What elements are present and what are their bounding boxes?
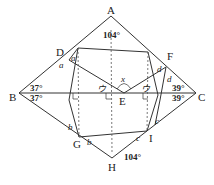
angle-x: x	[120, 74, 125, 84]
label-E: E	[119, 95, 126, 107]
angle-u-left: ウ	[97, 84, 107, 94]
angle-d-2: d	[167, 74, 172, 84]
label-A: A	[107, 4, 115, 16]
angle-c-1: c	[136, 133, 140, 143]
angle-b-2: b	[87, 137, 92, 147]
segment-DF-top	[78, 48, 148, 52]
dashed-left	[78, 48, 79, 137]
angle-a-1: a	[71, 53, 76, 63]
label-H: H	[108, 161, 116, 173]
label-B: B	[9, 91, 16, 103]
label-G: G	[73, 138, 81, 150]
right-angle-mark	[73, 93, 78, 99]
angle-d-1: d	[157, 64, 162, 74]
angle-B-lower: 37°	[30, 93, 43, 103]
angle-H: 104°	[124, 152, 142, 162]
label-C: C	[198, 91, 205, 103]
geometry-diagram: A B C H D F E G I 104° 104° 37° 37° 39° …	[0, 0, 214, 185]
angle-b-1: b	[68, 122, 73, 132]
angle-C-upper: 39°	[172, 83, 185, 93]
angle-B-upper: 37°	[30, 83, 43, 93]
diagram-canvas: A B C H D F E G I 104° 104° 37° 37° 39° …	[0, 0, 214, 185]
angle-C-lower: 39°	[172, 93, 185, 103]
angle-a-2: a	[59, 60, 64, 70]
angle-c-2: c	[155, 116, 159, 126]
label-I: I	[149, 132, 153, 144]
label-F: F	[167, 50, 173, 62]
angle-arc-x	[117, 84, 131, 90]
angle-u-right: ウ	[141, 84, 151, 94]
angle-A: 104°	[103, 30, 121, 40]
label-D: D	[56, 46, 64, 58]
right-angle-mark	[106, 93, 111, 99]
